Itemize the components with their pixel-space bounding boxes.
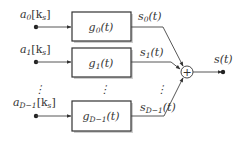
input-branch-d-1: aD−1[ks]: [13, 96, 71, 118]
signal-wire-1: [131, 62, 180, 69]
block-diagram: a0[ks] a1[ks] ⋮ aD−1[ks] g0(t) g1(t) ⋮ g…: [0, 0, 239, 141]
block-label-1: g1(t): [89, 57, 114, 71]
summing-junction: +: [181, 66, 193, 79]
signal-label-d-1: sD−1(t): [140, 101, 176, 115]
output-node: [221, 70, 225, 74]
block-ellipsis: ⋮: [99, 83, 110, 96]
input-label-1: a1[ks]: [20, 43, 50, 57]
input-label-d-1: aD−1[ks]: [13, 96, 56, 110]
block-label-0: g0(t): [89, 21, 114, 35]
signal-ellipsis: ⋮: [156, 83, 167, 96]
filter-block-d-1: gD−1(t): [72, 101, 133, 133]
plus-icon: +: [182, 66, 191, 79]
filter-block-1: g1(t): [72, 48, 133, 79]
input-branch-1: a1[ks]: [20, 43, 71, 64]
output-label: s(t): [214, 53, 233, 66]
signal-label-0: s0(t): [138, 10, 161, 24]
filter-block-0: g0(t): [72, 12, 133, 43]
input-label-0: a0[ks]: [20, 8, 50, 22]
input-branch-0: a0[ks]: [20, 8, 71, 29]
input-ellipsis: ⋮: [34, 83, 45, 96]
signal-label-1: s1(t): [140, 46, 163, 60]
